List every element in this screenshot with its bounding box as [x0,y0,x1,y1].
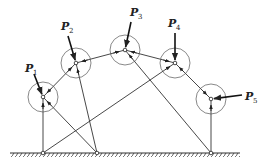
joint-pin [41,151,45,155]
force-arrow-icon [82,60,88,62]
joint-pin [209,151,213,155]
load-arrows [34,22,242,99]
load-labels: P1P2P3P4P5 [24,6,257,105]
node-circles [28,35,226,114]
force-arrow-icon [165,66,170,69]
force-arrow-icon [68,67,72,71]
joint-pin [209,97,213,101]
force-arrow-icon [47,88,51,92]
force-arrow-icon [203,91,207,95]
load-label-subscript: 1 [33,69,37,77]
member-N3-C [125,50,211,153]
joint-pin [41,95,45,99]
force-arrow-icon [77,69,78,75]
load-arrow-icon [214,95,242,99]
load-label-subscript: 4 [176,24,181,32]
force-arrow-icon [113,52,119,54]
load-label-subscript: 3 [138,13,142,21]
load-label-subscript: 5 [253,97,257,105]
load-arrow-icon [126,22,131,47]
load-label-subscript: 2 [69,27,73,35]
joint-pin [95,151,99,155]
force-arrow-icon [179,67,183,71]
truss-members [43,50,211,153]
joint-pin [173,61,177,65]
joints [41,48,213,155]
force-arrow-icon [163,60,169,62]
force-arrow-icon [129,55,133,60]
joint-pin [123,48,127,52]
member-N2-B [76,63,97,153]
force-arrow-icon [47,101,51,105]
joint-pin [74,61,78,65]
force-arrow-icon [131,52,137,54]
truss-diagram: P1P2P3P4P5 [0,0,272,168]
